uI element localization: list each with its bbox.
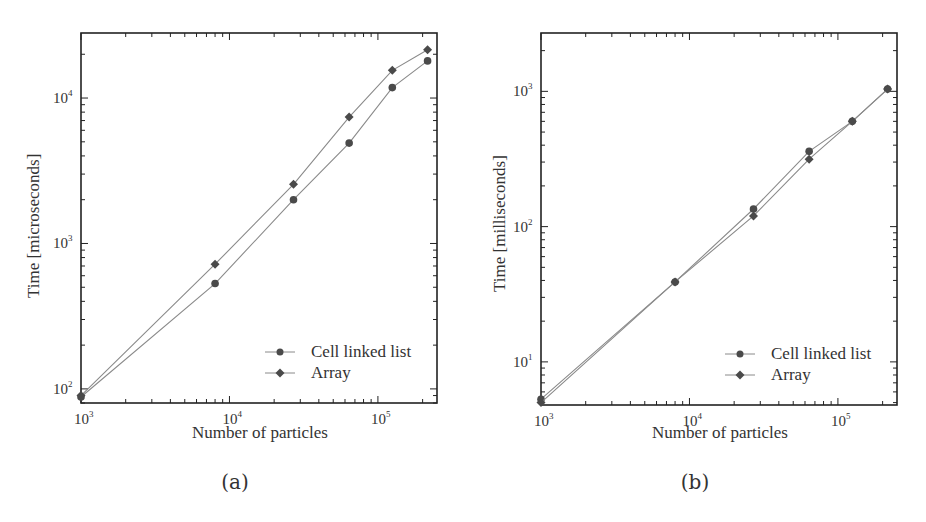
svg-text:10: 10 [371,411,386,427]
circle-marker-icon [265,346,295,358]
svg-text:5: 5 [386,409,391,419]
legend-item-cell-linked-list: Cell linked list [725,343,871,364]
svg-text:4: 4 [697,411,702,421]
svg-text:3: 3 [528,81,533,91]
chart-panel-b: 103104105101102103 Time [milliseconds] N… [460,0,923,522]
legend-item-array: Array [265,362,411,383]
diamond-marker-icon [265,367,295,379]
svg-text:5: 5 [846,411,851,421]
svg-text:3: 3 [89,409,94,419]
legend-a: Cell linked list Array [265,341,411,383]
legend-label: Array [771,365,811,385]
svg-text:10: 10 [534,413,549,429]
x-axis-label-b: Number of particles [620,423,820,443]
legend-label: Cell linked list [771,344,871,364]
legend-item-cell-linked-list: Cell linked list [265,341,411,362]
svg-text:10: 10 [53,90,68,106]
svg-text:4: 4 [237,409,242,419]
legend-item-array: Array [725,364,871,385]
circle-marker-icon [725,348,755,360]
svg-text:10: 10 [53,235,68,251]
svg-text:10: 10 [831,413,846,429]
svg-text:1: 1 [528,352,533,362]
svg-text:3: 3 [68,233,73,243]
svg-text:2: 2 [528,217,533,227]
chart-panel-a: 103104105102103104 Time [microseconds] N… [0,0,463,522]
svg-text:10: 10 [513,354,528,370]
plot-area-b: 103104105101102103 [460,0,926,522]
svg-text:10: 10 [513,83,528,99]
legend-b: Cell linked list Array [725,343,871,385]
caption-a: (a) [205,470,265,494]
legend-label: Cell linked list [311,342,411,362]
legend-label: Array [311,363,351,383]
diamond-marker-icon [725,369,755,381]
x-axis-label-a: Number of particles [160,423,360,443]
svg-text:10: 10 [53,381,68,397]
svg-text:2: 2 [68,379,73,389]
plot-area-a: 103104105102103104 [0,0,463,522]
y-axis-label-a: Time [microseconds] [24,154,44,298]
svg-text:4: 4 [68,88,73,98]
y-axis-label-b: Time [milliseconds] [490,155,510,292]
svg-text:10: 10 [513,219,528,235]
caption-b: (b) [665,470,725,494]
svg-text:10: 10 [74,411,89,427]
svg-text:3: 3 [549,411,554,421]
